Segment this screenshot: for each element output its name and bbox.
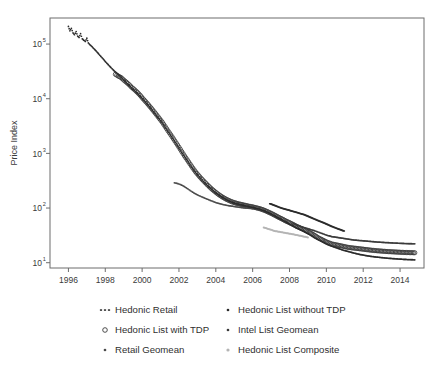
- chart-background: [0, 0, 434, 367]
- legend-marker-dot-icon: [227, 329, 230, 332]
- x-tick-label: 2008: [280, 275, 299, 285]
- data-point: [183, 154, 185, 156]
- y-tick-label: 10: [33, 149, 43, 159]
- price-index-scatter-chart: 101102103104105 199619982000200220042006…: [0, 0, 434, 367]
- y-tick-exponent: 4: [43, 92, 46, 98]
- data-point: [68, 26, 70, 28]
- data-point: [414, 243, 416, 245]
- y-tick-label: 10: [33, 203, 43, 213]
- data-point: [71, 30, 73, 32]
- x-tick-label: 2000: [133, 275, 152, 285]
- x-tick-label: 2012: [354, 275, 373, 285]
- legend-item-retail-geomean[interactable]: Retail Geomean: [104, 344, 185, 355]
- data-point: [186, 160, 188, 162]
- data-point: [68, 28, 70, 30]
- x-tick-label: 1998: [96, 275, 115, 285]
- data-point: [178, 147, 180, 149]
- data-point: [76, 33, 78, 35]
- data-point: [81, 35, 83, 37]
- legend-item-hedonic-list-composite[interactable]: Hedonic List Composite: [226, 344, 339, 355]
- legend-label: Hedonic Retail: [115, 304, 177, 315]
- legend-marker-dot-icon: [226, 348, 229, 351]
- data-point: [179, 148, 181, 150]
- data-point: [343, 230, 345, 231]
- y-tick-exponent: 2: [43, 201, 46, 207]
- data-point: [182, 153, 184, 155]
- data-point: [180, 150, 182, 152]
- y-tick-exponent: 5: [43, 37, 46, 43]
- y-axis-title: Price Index: [9, 120, 19, 166]
- data-point: [74, 34, 76, 36]
- legend-label: Hedonic List with TDP: [115, 324, 209, 335]
- data-point: [79, 35, 81, 37]
- data-point: [173, 139, 175, 141]
- legend-marker-dotted-line-icon: [104, 309, 106, 311]
- x-tick-label: 1996: [59, 275, 78, 285]
- data-point: [171, 136, 173, 138]
- data-point: [414, 259, 416, 261]
- data-point: [75, 31, 77, 33]
- chart-figure: 101102103104105 199619982000200220042006…: [0, 0, 434, 367]
- data-point: [162, 124, 164, 126]
- x-tick-label: 2002: [170, 275, 189, 285]
- data-point: [87, 40, 89, 42]
- y-tick-label: 10: [33, 258, 43, 268]
- legend-marker-dotted-line-icon: [100, 309, 102, 311]
- data-point: [74, 32, 76, 34]
- legend-item-intel-list-geomean[interactable]: Intel List Geomean: [227, 324, 319, 335]
- data-point: [187, 161, 189, 163]
- x-tick-label: 2014: [391, 275, 410, 285]
- data-point: [162, 122, 164, 124]
- x-tick-label: 2006: [243, 275, 262, 285]
- data-point: [86, 37, 88, 39]
- x-tick-label: 2004: [206, 275, 225, 285]
- x-tick-label: 2010: [317, 275, 336, 285]
- data-point: [163, 125, 165, 127]
- data-point: [174, 140, 176, 142]
- legend-marker-dot-icon: [227, 309, 230, 312]
- data-point: [188, 162, 190, 164]
- legend-label: Hedonic List Composite: [238, 344, 339, 355]
- legend-marker-dotted-line-icon: [108, 309, 110, 311]
- y-tick-label: 10: [33, 94, 43, 104]
- legend-marker-dot-icon: [104, 349, 107, 352]
- y-tick-exponent: 1: [43, 256, 46, 262]
- legend-label: Hedonic List without TDP: [238, 304, 346, 315]
- data-point: [85, 41, 87, 43]
- data-point: [80, 33, 82, 35]
- data-point: [78, 37, 80, 39]
- data-point: [307, 236, 309, 238]
- legend-item-hedonic-list-without-tdp[interactable]: Hedonic List without TDP: [227, 304, 346, 315]
- y-tick-label: 10: [33, 39, 43, 49]
- y-axis-title-text: Price Index: [9, 120, 19, 166]
- legend-item-hedonic-list-with-tdp[interactable]: Hedonic List with TDP: [103, 324, 210, 335]
- legend-label: Retail Geomean: [115, 344, 184, 355]
- y-tick-exponent: 3: [43, 147, 46, 153]
- legend-label: Intel List Geomean: [238, 324, 319, 335]
- data-point: [172, 137, 174, 139]
- data-point: [181, 151, 183, 153]
- data-point: [174, 141, 176, 143]
- data-point: [85, 39, 87, 41]
- data-point: [170, 134, 172, 136]
- data-point: [71, 27, 73, 29]
